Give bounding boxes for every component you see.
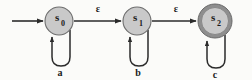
transition-s0-to-s1: ε [74,3,121,21]
state-s0-subscript: 0 [61,19,65,28]
self-loop-s2-path [207,35,225,68]
self-loop-s2: c [207,35,225,80]
state-s2-label: s [211,11,216,23]
self-loop-s2-label: c [213,69,218,80]
self-loop-s0-label: a [58,67,63,78]
transition-s1-to-s2-label: ε [174,3,179,14]
self-loop-s1-label: b [135,67,141,78]
automaton-canvas: ε ε a b c s 0 s [0,0,252,80]
automaton-diagram: ε ε a b c s 0 s [0,0,252,80]
state-s1[interactable]: s 1 [123,7,151,35]
state-s0-label: s [55,11,60,23]
transition-s0-to-s1-label: ε [96,3,101,14]
transition-s1-to-s2: ε [152,3,196,21]
state-s0[interactable]: s 0 [45,7,73,35]
state-s1-label: s [133,11,138,23]
state-s2-subscript: 2 [217,19,221,28]
state-s2[interactable]: s 2 [198,4,232,38]
self-loop-s1: b [130,30,148,78]
self-loop-s0: a [52,30,70,78]
state-s1-subscript: 1 [139,19,143,28]
